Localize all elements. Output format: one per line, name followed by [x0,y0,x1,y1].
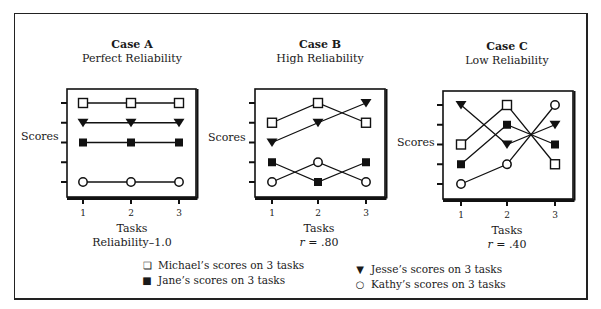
svg-text:2: 2 [504,210,510,220]
svg-text:3: 3 [552,210,558,220]
legend-kathy-label: Kathy’s scores on 3 tasks [371,277,506,292]
open-circle-icon: ○ [353,277,367,292]
panel-c-xlabel-text: Tasks [427,224,587,238]
legend-jesse-label: Jesse’s scores on 3 tasks [371,262,502,277]
filled-square-icon: ■ [140,273,154,288]
panel-c-r-value: = .40 [493,238,527,251]
filled-down-triangle-icon: ▼ [353,262,367,277]
legend-left: ❏ Michael’s scores on 3 tasks ■ Jane’s s… [140,258,304,288]
panel-c-xlabel: Tasks r = .40 [427,224,587,252]
legend-michael-label: Michael’s scores on 3 tasks [158,258,304,273]
svg-text:1: 1 [458,210,464,220]
legend-jane-label: Jane’s scores on 3 tasks [158,273,285,288]
legend-item-michael: ❏ Michael’s scores on 3 tasks [140,258,304,273]
legend-right: ▼ Jesse’s scores on 3 tasks ○ Kathy’s sc… [353,262,506,292]
legend-item-jesse: ▼ Jesse’s scores on 3 tasks [353,262,506,277]
legend-item-jane: ■ Jane’s scores on 3 tasks [140,273,304,288]
legend-item-kathy: ○ Kathy’s scores on 3 tasks [353,277,506,292]
panel-c-correlation: r = .40 [427,238,587,252]
open-square-icon: ❏ [140,258,154,273]
